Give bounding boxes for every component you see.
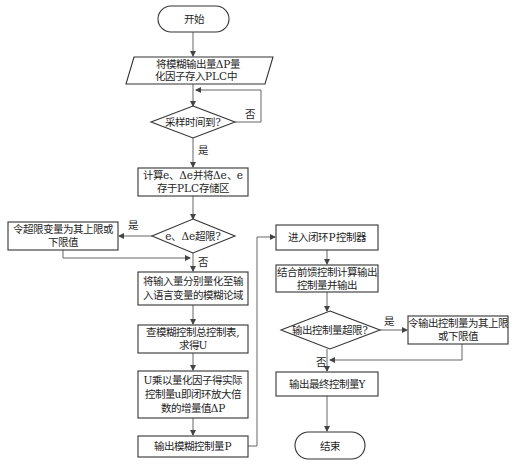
node-sample-time: 采样时间到? [151, 106, 235, 138]
svg-text:U乘以量化因子得实际: U乘以量化因子得实际 [144, 374, 243, 386]
label-e-no: 否 [198, 256, 209, 268]
svg-text:将输入量分别量化至输: 将输入量分别量化至输 [143, 275, 244, 287]
node-output-over-limit: 输出控制量超限? [281, 311, 380, 349]
edge-output-to-enter-p [248, 237, 275, 446]
node-e-over-limit: e、Δe超限? [152, 219, 235, 253]
node-start: 开始 [158, 6, 229, 32]
svg-text:e、Δe超限?: e、Δe超限? [165, 230, 221, 242]
label-sample-yes: 是 [198, 144, 209, 156]
svg-text:数的增量值ΔP: 数的增量值ΔP [161, 402, 226, 414]
svg-text:采样时间到?: 采样时间到? [165, 116, 221, 128]
svg-text:计算e、Δe并将Δe、e: 计算e、Δe并将Δe、e [143, 169, 243, 181]
node-compute-e: 计算e、Δe并将Δe、e 存于PLC存储区 [138, 168, 248, 196]
connectors [63, 32, 462, 446]
svg-text:化因子存入PLC中: 化因子存入PLC中 [155, 70, 237, 82]
svg-text:入语言变量的模糊论域: 入语言变量的模糊论域 [143, 289, 244, 301]
svg-text:开始: 开始 [184, 13, 205, 25]
node-enter-p: 进入闭环P控制器 [276, 225, 378, 250]
node-set-limit-var: 令超限变量为其上限或 下限值 [8, 222, 118, 250]
node-output-final: 输出最终控制量Y [276, 372, 378, 396]
svg-text:输出模糊控制量P: 输出模糊控制量P [154, 440, 231, 452]
node-set-output-limit: 令输出控制量为其上限 或下限值 [408, 316, 509, 344]
label-sample-no: 否 [245, 108, 256, 120]
label-e-yes: 是 [128, 219, 139, 231]
flowchart-canvas: 否 是 是 否 是 否 开始 将模糊输出量ΔP量 化因子存入PLC中 采样时间到… [0, 0, 518, 469]
node-lookup-table: 查模糊控制总控制表, 求得U [138, 325, 248, 353]
node-multiply: U乘以量化因子得实际 控制量u即闭环放大倍 数的增量值ΔP [138, 371, 248, 418]
label-out-yes: 是 [384, 315, 395, 327]
edge-limit-return [63, 250, 190, 258]
svg-text:输出控制量超限?: 输出控制量超限? [292, 324, 368, 336]
svg-text:求得U: 求得U [179, 339, 208, 351]
svg-text:控制量并输出: 控制量并输出 [297, 279, 357, 291]
svg-text:结合前馈控制计算输出: 结合前馈控制计算输出 [277, 266, 377, 278]
svg-text:查模糊控制总控制表,: 查模糊控制总控制表, [146, 326, 239, 338]
node-output-fuzzy: 输出模糊控制量P [138, 436, 248, 457]
svg-text:令输出控制量为其上限: 令输出控制量为其上限 [408, 317, 509, 329]
node-store-factor: 将模糊输出量ΔP量 化因子存入PLC中 [126, 57, 273, 84]
svg-text:或下限值: 或下限值 [438, 330, 479, 342]
svg-text:控制量u即闭环放大倍: 控制量u即闭环放大倍 [145, 388, 243, 400]
svg-text:令超限变量为其上限或: 令超限变量为其上限或 [13, 223, 114, 235]
svg-text:输出最终控制量Y: 输出最终控制量Y [289, 378, 367, 390]
svg-text:进入闭环P控制器: 进入闭环P控制器 [288, 231, 366, 243]
node-end: 结束 [295, 432, 365, 459]
label-out-no: 否 [316, 356, 327, 368]
edge-out-limit-return [330, 344, 462, 360]
svg-text:存于PLC存储区: 存于PLC存储区 [157, 182, 229, 194]
node-feedforward: 结合前馈控制计算输出 控制量并输出 [276, 265, 378, 292]
svg-text:下限值: 下限值 [48, 236, 79, 248]
svg-text:结束: 结束 [320, 440, 341, 452]
node-quantize: 将输入量分别量化至输 入语言变量的模糊论域 [138, 272, 248, 305]
svg-text:将模糊输出量ΔP量: 将模糊输出量ΔP量 [156, 58, 242, 70]
